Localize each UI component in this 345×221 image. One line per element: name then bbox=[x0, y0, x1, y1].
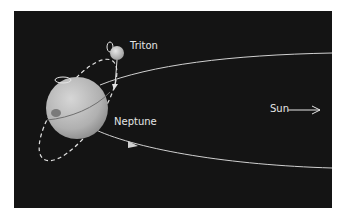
neptune-orbit-path bbox=[100, 53, 332, 85]
neptune-triton-diagram bbox=[0, 0, 345, 221]
neptune-planet bbox=[46, 77, 108, 139]
neptune-label: Neptune bbox=[114, 116, 157, 127]
sun-label: Sun bbox=[270, 103, 289, 114]
neptune-orbit-path-lower bbox=[96, 130, 332, 168]
triton-label: Triton bbox=[130, 40, 158, 51]
triton-moon bbox=[110, 46, 124, 60]
neptune-dark-spot bbox=[51, 109, 61, 117]
orbit-direction-arrow bbox=[128, 141, 138, 148]
